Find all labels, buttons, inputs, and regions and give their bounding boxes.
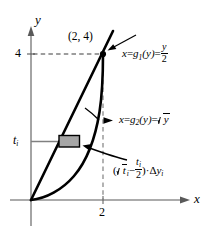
curve-g2-equation-label: x=g2(y)=y	[119, 113, 170, 127]
intersection-point-label: (2, 4)	[68, 31, 93, 43]
x-axis-arrowhead	[180, 197, 190, 204]
area-dy-subscript: i	[161, 169, 163, 178]
y-axis-label: y	[35, 13, 41, 26]
area-fraction-denominator: 2	[135, 170, 142, 181]
leader-g2-arrowhead	[104, 117, 114, 124]
y-tick-label-4: 4	[15, 47, 21, 59]
g1-arg: (y)	[142, 47, 154, 59]
ti-subscript: i	[16, 139, 18, 148]
x-axis-label: x	[194, 192, 200, 205]
y-tick-label-ti: ti	[13, 134, 18, 148]
rectangle-area-label: (ti−ti2)·Δyi	[113, 157, 163, 181]
g2-arg: (y)	[139, 113, 151, 125]
g2-sqrt: y	[158, 113, 170, 125]
g2-sqrt-radicand: y	[163, 113, 170, 125]
representative-rectangle	[59, 136, 80, 148]
area-fraction-numerator-subscript: i	[139, 160, 141, 169]
x-tick-label-2: 2	[99, 206, 105, 218]
curve-g1-line	[31, 31, 113, 200]
figure-container: y x 4 2 ti (2, 4) x=g1(y)=y2 x=g2(y)=y (…	[0, 0, 215, 241]
area-sqrt-radicand-subscript: i	[127, 169, 129, 178]
area-fraction: ti2	[135, 157, 142, 181]
graph-canvas	[0, 0, 215, 241]
leader-g1-arrowhead	[108, 44, 117, 50]
g1-fraction: y2	[161, 42, 168, 64]
g1-fraction-numerator: y	[161, 42, 168, 54]
curve-g1-equation-label: x=g1(y)=y2	[122, 42, 168, 64]
intersection-point-marker	[100, 51, 106, 57]
area-sqrt: ti	[117, 164, 129, 178]
y-axis-arrowhead	[28, 26, 35, 36]
g1-fraction-denominator: 2	[161, 54, 168, 65]
